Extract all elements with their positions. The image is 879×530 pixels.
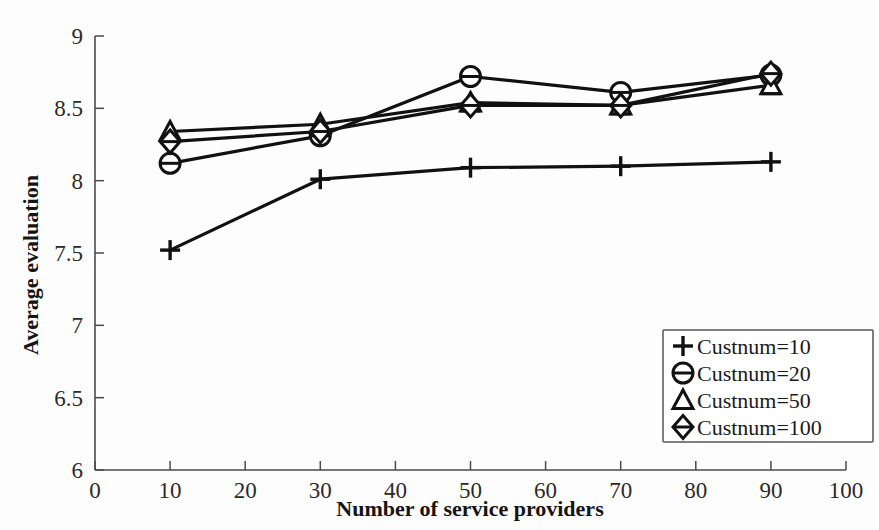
marker-plus-point [160, 240, 180, 260]
y-axis-title: Average evaluation [18, 175, 43, 355]
x-tick-label: 0 [89, 478, 101, 503]
legend-item-label: Custnum=100 [697, 415, 822, 440]
marker-plus-point [611, 156, 631, 176]
legend-item-label: Custnum=50 [697, 388, 811, 413]
legend-item-label: Custnum=10 [697, 334, 811, 359]
x-tick-label: 70 [609, 478, 632, 503]
y-tick-group: 66.577.588.59 [54, 24, 104, 483]
x-tick-label: 10 [159, 478, 182, 503]
chart-page: 66.577.588.59 0102030405060708090100 Num… [0, 0, 879, 530]
marker-circle-point [461, 67, 481, 87]
y-tick-label: 9 [72, 24, 84, 49]
line-chart: 66.577.588.59 0102030405060708090100 Num… [0, 0, 879, 530]
marker-diamond-point [461, 94, 481, 117]
x-tick-label: 80 [684, 478, 707, 503]
marker-circle-point [160, 153, 180, 173]
y-tick-label: 6.5 [54, 386, 83, 411]
marker-plus-point [761, 152, 781, 172]
x-tick-label: 20 [234, 478, 257, 503]
marker-plus-point [461, 158, 481, 178]
legend-item-label: Custnum=20 [697, 361, 811, 386]
y-tick-label: 8 [72, 169, 84, 194]
x-axis-title: Number of service providers [336, 496, 604, 521]
series-custnum-10 [160, 152, 781, 260]
marker-circle-legend [673, 363, 693, 383]
y-tick-label: 6 [72, 458, 84, 483]
y-tick-label: 7.5 [54, 241, 83, 266]
x-tick-label: 30 [309, 478, 332, 503]
chart-legend: Custnum=10Custnum=20Custnum=50Custnum=10… [663, 330, 873, 442]
y-tick-label: 8.5 [54, 96, 83, 121]
marker-plus-point [310, 169, 330, 189]
y-tick-label: 7 [72, 313, 84, 338]
x-tick-label: 90 [759, 478, 782, 503]
x-tick-label: 100 [829, 478, 864, 503]
series-group [160, 62, 781, 260]
